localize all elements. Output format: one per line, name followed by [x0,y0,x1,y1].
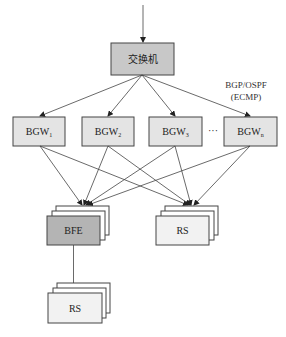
switch-to-bgw-links [40,75,250,116]
network-diagram: 交换机 BGP/OSPF (ECMP) BGW1 BGW2 BGW3 ··· B… [0,0,286,337]
bfe-stack: BFE [47,206,109,245]
bgw-node-n: BGWn [224,117,277,146]
svg-text:BGWn: BGWn [237,126,263,138]
svg-text:BGW3: BGW3 [162,126,188,138]
bgw-node-1: BGW1 [13,117,65,146]
bgw-node-2: BGW2 [82,117,134,146]
protocol-label-line2: (ECMP) [231,92,262,102]
bgw-3-label: BGW [162,126,186,137]
switch-node: 交换机 [111,43,174,75]
rs-stack-right: RS [156,206,218,245]
bfe-label: BFE [64,225,82,236]
svg-text:BGW1: BGW1 [26,126,52,138]
rs-right-label: RS [176,225,188,236]
ellipsis: ··· [208,125,218,136]
bgw-n-label: BGW [237,126,261,137]
rs-bottom-label: RS [69,303,81,314]
bgw-2-label: BGW [95,126,119,137]
bgw-node-3: BGW3 [149,117,202,146]
protocol-label-line1: BGP/OSPF [225,80,267,90]
svg-text:BGW2: BGW2 [95,126,121,138]
bgw-to-backend-links [40,146,250,205]
rs-stack-bottom: RS [48,283,110,323]
switch-label: 交换机 [128,53,158,65]
bgw-1-label: BGW [26,126,50,137]
